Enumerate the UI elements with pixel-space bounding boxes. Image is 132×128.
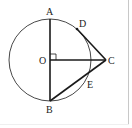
geometry-diagram: A B O C D E — [0, 0, 132, 128]
label-o: O — [39, 55, 46, 66]
point-d-dot — [76, 28, 79, 31]
label-b: B — [46, 104, 53, 115]
segment-bc — [50, 60, 106, 101]
geometry-figure: A B O C D E — [0, 0, 132, 128]
label-d: D — [79, 18, 86, 29]
segment-dc — [77, 29, 106, 60]
label-a: A — [46, 6, 54, 17]
right-angle-mark — [50, 54, 56, 60]
label-c: C — [108, 55, 115, 66]
bottom-border — [0, 124, 129, 125]
label-e: E — [87, 79, 93, 90]
right-border — [128, 0, 129, 124]
